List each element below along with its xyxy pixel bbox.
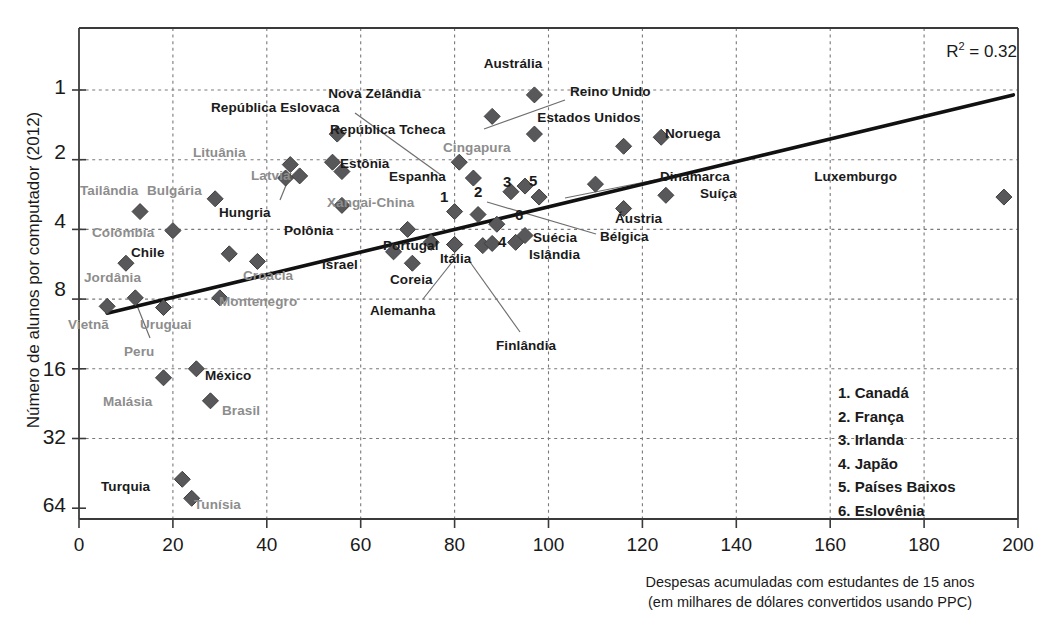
data-point-marker	[447, 204, 463, 220]
point-label: Finlândia	[496, 338, 556, 353]
x-axis-tick-140: 140	[706, 534, 766, 556]
data-point-marker	[526, 126, 542, 142]
data-point-marker	[188, 361, 204, 377]
chart-figure: Número de alunos por computador (2012) 1…	[0, 0, 1049, 626]
y-axis-tick-64: 64	[26, 493, 66, 517]
point-label: Estônia	[340, 156, 389, 171]
x-axis-tick-0: 0	[49, 534, 109, 556]
point-label: Turquia	[101, 479, 150, 494]
point-label: Colômbia	[92, 225, 154, 240]
data-point-marker	[451, 154, 467, 170]
data-point-marker	[587, 176, 603, 192]
x-axis-tick-180: 180	[894, 534, 954, 556]
data-point-marker	[221, 246, 237, 262]
data-point-marker	[202, 393, 218, 409]
y-axis-tick-8: 8	[26, 277, 66, 301]
point-label: Noruega	[665, 126, 720, 141]
point-label: Tailândia	[80, 183, 138, 198]
point-label: Suíça	[700, 186, 737, 201]
data-point-marker	[996, 189, 1012, 205]
legend-entry: 4. Japão	[838, 452, 956, 476]
x-axis-caption-line2: (em milhares de dólares convertidos usan…	[600, 592, 1020, 612]
point-label: Latvia	[251, 168, 291, 183]
y-axis-tick-32: 32	[26, 425, 66, 449]
legend-entry: 3. Irlanda	[838, 428, 956, 452]
point-label: Xangai-China	[327, 195, 414, 210]
y-axis-tick-16: 16	[26, 357, 66, 381]
point-number-label: 4	[498, 233, 506, 250]
x-axis-tick-40: 40	[237, 534, 297, 556]
numbered-country-legend: 1. Canadá2. França3. Irlanda4. Japão5. P…	[838, 381, 956, 522]
data-point-marker	[526, 87, 542, 103]
point-label: México	[205, 368, 251, 383]
point-label: Hungria	[219, 205, 271, 220]
legend-entry: 1. Canadá	[838, 381, 956, 405]
x-axis-tick-100: 100	[519, 534, 579, 556]
point-label: Lituânia	[193, 145, 246, 160]
point-label: Espanha	[389, 169, 446, 184]
data-point-marker	[404, 255, 420, 271]
point-label: Suécia	[533, 230, 577, 245]
point-number-label: 2	[474, 183, 482, 200]
x-axis-caption: Despesas acumuladas com estudantes de 15…	[600, 572, 1020, 612]
data-point-marker	[165, 223, 181, 239]
r-squared-value: 0.32	[984, 42, 1017, 61]
point-label: Brasil	[222, 403, 260, 418]
point-label: Chile	[131, 245, 165, 260]
data-point-marker	[658, 187, 674, 203]
y-axis-tick-2: 2	[26, 140, 66, 164]
point-label: Portugal	[383, 238, 439, 253]
point-label: Nova Zelândia	[328, 86, 421, 101]
y-axis-tick-1: 1	[26, 75, 66, 99]
point-label: Israel	[322, 257, 358, 272]
point-label: Itália	[440, 251, 471, 266]
data-point-marker	[156, 370, 172, 386]
x-axis-tick-80: 80	[425, 534, 485, 556]
point-label: Austrália	[484, 56, 543, 71]
legend-entry: 6. Eslovênia	[838, 499, 956, 523]
point-label: Coreia	[390, 272, 433, 287]
point-number-label: 5	[529, 172, 537, 189]
data-point-marker	[400, 221, 416, 237]
point-label: Luxemburgo	[814, 169, 897, 184]
point-label: Alemanha	[370, 303, 435, 318]
point-label: Cingapura	[443, 140, 511, 155]
x-axis-tick-20: 20	[143, 534, 203, 556]
data-point-marker	[132, 204, 148, 220]
legend-entry: 2. França	[838, 405, 956, 429]
point-label: Uruguai	[140, 317, 192, 332]
scatter-plot-canvas	[0, 0, 1049, 626]
point-label: Peru	[124, 344, 154, 359]
x-axis-tick-200: 200	[988, 534, 1048, 556]
point-label: Áustria	[615, 211, 662, 226]
point-label: Bulgária	[147, 183, 202, 198]
point-label: Malásia	[103, 394, 152, 409]
data-point-marker	[292, 168, 308, 184]
point-label: Vietnã	[68, 317, 109, 332]
x-axis-tick-60: 60	[331, 534, 391, 556]
point-label: República Eslovaca	[211, 100, 340, 115]
point-label: Dinamarca	[660, 169, 730, 184]
x-axis-caption-line1: Despesas acumuladas com estudantes de 15…	[600, 572, 1020, 592]
data-point-marker	[470, 207, 486, 223]
data-point-marker	[484, 108, 500, 124]
x-axis-tick-120: 120	[612, 534, 672, 556]
point-label: Croácia	[243, 268, 293, 283]
point-label: República Tcheca	[330, 122, 445, 137]
point-label: Tunísia	[194, 497, 241, 512]
y-axis-tick-4: 4	[26, 209, 66, 233]
r-squared-annotation: R2 = 0.32	[946, 40, 1017, 62]
legend-entry: 5. Países Baixos	[838, 475, 956, 499]
point-label: Montenegro	[219, 294, 297, 309]
point-label: Islândia	[529, 247, 580, 262]
point-number-label: 1	[440, 188, 448, 205]
point-label: Bélgica	[600, 229, 649, 244]
data-point-marker	[174, 471, 190, 487]
point-number-label: 6	[515, 206, 523, 223]
point-label: Jordânia	[84, 270, 141, 285]
point-number-label: 3	[503, 173, 511, 190]
point-label: Reino Unido	[570, 84, 651, 99]
data-point-marker	[616, 138, 632, 154]
point-label: Polônia	[284, 223, 333, 238]
x-axis-tick-160: 160	[800, 534, 860, 556]
